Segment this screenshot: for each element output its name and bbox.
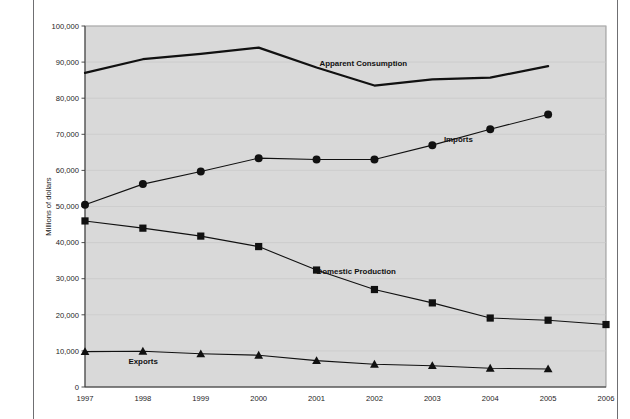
data-point-marker [487, 314, 494, 321]
x-tick-label: 2006 [598, 394, 615, 403]
series-annotation: Exports [128, 357, 158, 366]
data-point-marker [486, 125, 494, 133]
chart-canvas: 010,00020,00030,00040,00050,00060,00070,… [34, 0, 617, 419]
x-tick-label: 2004 [482, 394, 499, 403]
data-point-marker [371, 286, 378, 293]
data-point-marker [313, 156, 321, 164]
data-point-marker [81, 217, 88, 224]
y-tick-label: 0 [75, 383, 79, 392]
x-tick-labels-group: 1997199819992000200120022003200420052006 [77, 394, 615, 403]
x-tick-label: 2005 [540, 394, 557, 403]
y-axis-title: Millions of dollars [44, 177, 53, 235]
x-tick-label: 2001 [308, 394, 325, 403]
data-point-marker [139, 225, 146, 232]
y-tick-label: 40,000 [56, 238, 79, 247]
data-point-marker [139, 180, 147, 188]
y-tick-label: 30,000 [56, 274, 79, 283]
x-tick-label: 1998 [134, 394, 151, 403]
y-tick-label: 60,000 [56, 166, 79, 175]
y-tick-label: 80,000 [56, 94, 79, 103]
data-point-marker [255, 154, 263, 162]
x-tick-label: 1999 [192, 394, 209, 403]
series-annotation: Imports [444, 135, 474, 144]
data-point-marker [544, 110, 552, 118]
series-annotation: Apparent Consumption [319, 59, 407, 68]
x-tick-label: 1997 [77, 394, 94, 403]
y-tick-label: 10,000 [56, 347, 79, 356]
data-point-marker [545, 317, 552, 324]
data-point-marker [81, 201, 89, 209]
y-tick-labels-group: 010,00020,00030,00040,00050,00060,00070,… [52, 22, 79, 392]
data-point-marker [197, 167, 205, 175]
data-point-marker [602, 321, 609, 328]
data-point-marker [429, 299, 436, 306]
x-tick-label: 2002 [366, 394, 383, 403]
y-tick-label: 50,000 [56, 202, 79, 211]
data-point-marker [197, 233, 204, 240]
y-tick-label: 100,000 [52, 22, 79, 31]
y-tick-label: 70,000 [56, 130, 79, 139]
x-tick-label: 2003 [424, 394, 441, 403]
line-chart-figure: 010,00020,00030,00040,00050,00060,00070,… [34, 0, 617, 419]
page-rule-right [617, 0, 618, 419]
data-point-marker [370, 156, 378, 164]
data-point-marker [428, 141, 436, 149]
x-tick-label: 2000 [250, 394, 267, 403]
data-point-marker [255, 243, 262, 250]
y-tick-label: 90,000 [56, 58, 79, 67]
series-annotation: Domestic Production [317, 267, 397, 276]
y-tick-label: 20,000 [56, 311, 79, 320]
figure-page: 010,00020,00030,00040,00050,00060,00070,… [0, 0, 630, 419]
